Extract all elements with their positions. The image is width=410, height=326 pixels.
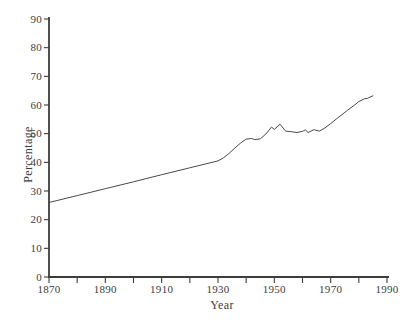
y-tick-label: 40 xyxy=(30,156,42,168)
y-tick-label: 0 xyxy=(36,271,42,283)
x-tick-label: 1990 xyxy=(375,283,398,295)
y-tick-label: 80 xyxy=(30,41,42,53)
y-tick-label: 50 xyxy=(30,127,42,139)
y-tick-label: 60 xyxy=(30,99,42,111)
y-tick-label: 90 xyxy=(30,13,42,25)
x-tick-label: 1950 xyxy=(263,283,286,295)
y-tick-label: 30 xyxy=(30,185,42,197)
y-tick-label: 70 xyxy=(30,70,42,82)
line-chart: 0102030405060708090187018901910193019501… xyxy=(0,0,410,326)
y-tick-label: 10 xyxy=(30,242,42,254)
data-line-percentage xyxy=(49,96,373,203)
x-tick-label: 1870 xyxy=(37,283,60,295)
figure-page: 0102030405060708090187018901910193019501… xyxy=(0,0,410,326)
x-tick-label: 1930 xyxy=(206,283,229,295)
y-tick-label: 20 xyxy=(30,213,42,225)
x-tick-label: 1970 xyxy=(319,283,342,295)
x-tick-label: 1890 xyxy=(94,283,117,295)
x-tick-label: 1910 xyxy=(150,283,173,295)
